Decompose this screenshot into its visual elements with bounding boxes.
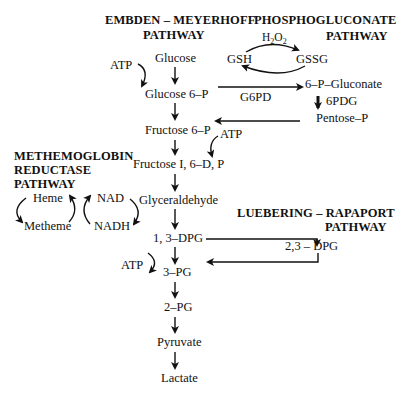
step-2pg: 2–PG bbox=[164, 301, 192, 314]
pathway-diagram: EMBDEN – MEYERHOFF PATHWAY PHOSPHOGLUCON… bbox=[0, 0, 400, 395]
atp-label-2: ATP bbox=[220, 128, 242, 141]
arrow-atp-2 bbox=[211, 136, 218, 156]
arrow-atp-3 bbox=[148, 253, 155, 272]
arrow-gssg-to-gsh bbox=[243, 66, 305, 73]
luebering-rapaport-title-line2: PATHWAY bbox=[325, 221, 387, 234]
arrow-atp-1 bbox=[138, 64, 145, 86]
metheme-label: Metheme bbox=[24, 220, 71, 233]
heme-label: Heme bbox=[33, 192, 63, 205]
gssg-label: GSSG bbox=[296, 53, 328, 66]
phosphogluconate-title: PHOSPHOGLUCONATE bbox=[254, 14, 396, 27]
step-fructose-6p: Fructose 6–P bbox=[145, 124, 211, 137]
methemoglobin-title: METHEMOGLOBIN bbox=[14, 150, 133, 163]
embden-meyerhoff-title-line2: PATHWAY bbox=[143, 29, 205, 42]
step-glucose: Glucose bbox=[155, 52, 196, 65]
g6pd-label: G6PD bbox=[240, 91, 271, 104]
luebering-rapaport-title: LUEBERING – RAPAPORT bbox=[237, 207, 395, 220]
step-13-dpg: 1, 3–DPG bbox=[153, 232, 203, 245]
gsh-label: GSH bbox=[227, 53, 252, 66]
23-dpg-label: 2,3 – DPG bbox=[285, 240, 338, 253]
step-pyruvate: Pyruvate bbox=[157, 336, 201, 349]
step-fructose-16dp: Fructose I, 6–D, P bbox=[133, 158, 224, 171]
nadh-label: NADH bbox=[94, 220, 130, 233]
embden-meyerhoff-title: EMBDEN – MEYERHOFF bbox=[105, 14, 255, 27]
nad-label: NAD bbox=[97, 192, 124, 205]
6p-gluconate-label: 6–P–Gluconate bbox=[305, 78, 382, 91]
h2o2-label: H2O2 bbox=[262, 32, 287, 46]
step-glucose-6p: Glucose 6–P bbox=[145, 88, 209, 101]
phosphogluconate-title-line2: PATHWAY bbox=[326, 30, 388, 43]
pentose-p-label: Pentose–P bbox=[316, 112, 368, 125]
6pdg-label: 6PDG bbox=[326, 95, 357, 108]
methemoglobin-title-line2: REDUCTASE bbox=[14, 164, 91, 177]
atp-label-3: ATP bbox=[121, 259, 143, 272]
step-glyceraldehyde: Glyceraldehyde bbox=[139, 194, 218, 207]
arrow-nad-to-nadh bbox=[130, 199, 138, 224]
atp-label-1: ATP bbox=[110, 59, 132, 72]
step-lactate: Lactate bbox=[161, 372, 198, 385]
arrow-23dpg-to-3pg bbox=[208, 253, 318, 262]
methemoglobin-title-line3: PATHWAY bbox=[14, 178, 76, 191]
step-3pg: 3–PG bbox=[163, 266, 191, 279]
arrow-nadh-to-nad bbox=[84, 196, 90, 224]
